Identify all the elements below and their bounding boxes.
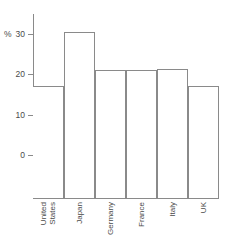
y-axis-tick-label: 30 [16, 30, 25, 39]
x-axis-tick-label: Germany [107, 202, 116, 235]
y-axis-tick-label: 10 [16, 111, 25, 120]
x-axis-tick-label: Italy [169, 202, 178, 217]
bar [64, 32, 95, 198]
y-axis-tick-label: 0 [20, 151, 25, 160]
bar [157, 69, 188, 198]
x-axis-tick-label: France [138, 202, 147, 227]
x-axis-tick-label: Japan [76, 202, 85, 224]
bar [95, 70, 126, 198]
bar-chart: % 0102030 United StatesJapanGermanyFranc… [0, 0, 231, 250]
bar [126, 70, 157, 198]
y-axis-tick [28, 34, 34, 35]
y-axis-tick-label: 20 [16, 70, 25, 79]
x-axis-line [33, 198, 219, 199]
bar [188, 86, 219, 198]
y-axis-tick [28, 74, 34, 75]
bar [33, 86, 64, 198]
x-axis-tick-label: United States [40, 202, 57, 225]
y-axis-unit-label: % [4, 30, 12, 39]
x-axis-tick-label: UK [200, 202, 209, 213]
